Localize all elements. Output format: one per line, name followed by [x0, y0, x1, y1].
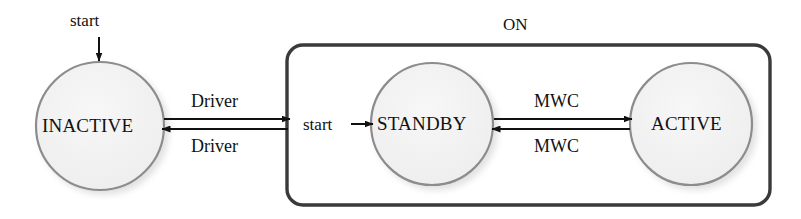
- state-label-standby: STANDBY: [377, 114, 467, 133]
- state-label-inactive: INACTIVE: [42, 116, 133, 135]
- diagram-graphics-layer: [0, 0, 801, 219]
- state-label-active: ACTIVE: [651, 114, 722, 133]
- entry-label-standby: start: [303, 116, 332, 133]
- transition-label-active-to-standby: MWC: [534, 137, 579, 155]
- entry-label-inactive: start: [70, 12, 99, 29]
- state-diagram: start INACTIVE Driver Driver ON start ST…: [0, 0, 801, 219]
- transition-label-inactive-to-on: Driver: [191, 92, 238, 110]
- transition-label-on-to-inactive: Driver: [191, 137, 238, 155]
- group-label-on: ON: [503, 16, 528, 33]
- transition-label-standby-to-active: MWC: [534, 92, 579, 110]
